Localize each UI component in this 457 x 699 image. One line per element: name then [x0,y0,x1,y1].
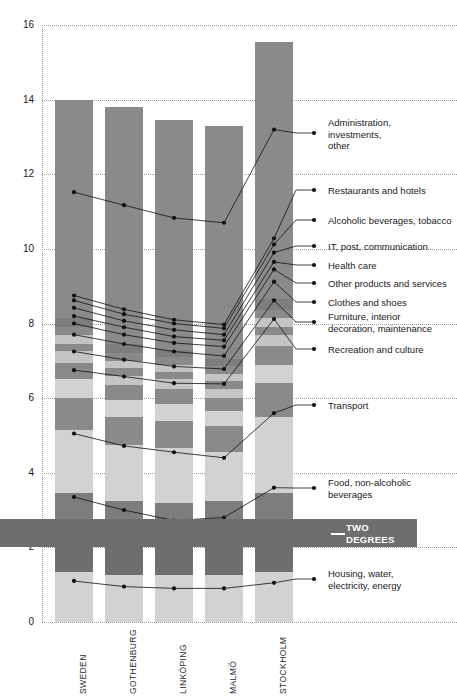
callout-label: IT, post, communication [328,241,428,253]
bar-segment [255,365,293,384]
bar-segment [155,421,193,449]
callout-label: Transport [328,400,368,412]
bar-segment [155,365,193,372]
bar-segment [205,126,243,359]
bar-segment [255,42,293,299]
bar-segment [255,318,293,327]
bar-segment [105,400,143,417]
y-axis-tick-label: 10 [8,244,34,254]
bar-segment [105,368,143,375]
bar-segment [205,389,243,398]
two-degrees-goal-band: TWO DEGREES GOAL [0,519,417,547]
bar-segment [55,430,93,493]
callout-label: Furniture, interior decoration, maintena… [328,311,432,334]
x-axis-tick-label: SWEDEN [78,654,88,694]
ghg-footprint-stacked-bar-chart: 0246810121416SWEDENGOTHENBURGLINKÖPINGMA… [0,0,457,699]
callout-label: Restaurants and hotels [328,185,426,197]
bar-segment [55,335,93,344]
bar-sweden [55,0,93,699]
callout-label: Housing, water, electricity, energy [328,568,401,591]
callout-label: Clothes and shoes [328,297,407,309]
bar-segment [155,404,193,421]
bar-segment [55,100,93,318]
bar-segment [255,327,293,334]
bar-segment [205,381,243,388]
y-axis-tick-label: 8 [8,319,34,329]
bar-segment [155,357,193,364]
bar-segment [55,363,93,380]
bar-segment [155,547,193,575]
bar-segment [55,318,93,327]
bar-segment [105,417,143,445]
bar-segment [105,344,143,353]
bar-segment [55,398,93,430]
callout-label: Health care [328,260,377,272]
y-axis-tick-label: 6 [8,393,34,403]
bar-segment [55,344,93,351]
y-axis-tick-label: 0 [8,617,34,627]
x-axis-tick-label: MALMÖ [228,661,238,694]
bar-segment [255,299,293,310]
callout-label: Administration, investments, other [328,117,391,152]
bar-segment [105,376,143,385]
bar-segment [155,448,193,502]
goal-band-label: TWO DEGREES GOAL [346,522,417,557]
bar-malmö [205,0,243,699]
y-axis-tick-label: 4 [8,468,34,478]
bar-gothenburg [105,0,143,699]
bar-segment [205,366,243,373]
bar-segment [155,379,193,388]
bar-segment [155,389,193,404]
y-axis-tick-label: 12 [8,169,34,179]
bar-segment [205,575,243,622]
bar-segment [255,383,293,417]
bar-segment [105,547,143,575]
bar-segment [205,426,243,452]
bar-segment [205,374,243,381]
bar-segment [205,411,243,426]
bar-segment [105,385,143,400]
bar-segment [205,398,243,411]
callout-label: Food, non-alcoholic beverages [328,477,411,500]
bar-segment [155,575,193,622]
callout-label: Other products and services [328,278,447,290]
bar-segment [205,359,243,366]
bar-segment [255,417,293,493]
callout-label: Alcoholic beverages, tobacco [328,215,452,227]
callout-label: Recreation and culture [328,344,424,356]
bar-segment [255,310,293,317]
bar-segment [205,547,243,575]
bar-segment [105,575,143,622]
bar-segment [155,372,193,379]
bar-segment [255,544,293,572]
goal-band-label-line1: TWO DEGREES [346,522,417,545]
bar-stockholm [255,0,293,699]
bar-segment [105,107,143,344]
y-axis-tick-label: 14 [8,95,34,105]
x-axis-tick-label: GOTHENBURG [128,629,138,694]
bar-segment [205,452,243,501]
bar-segment [155,120,193,349]
goal-band-label-line2: GOAL [346,545,417,557]
bar-segment [55,351,93,362]
bar-segment [255,346,293,365]
bar-segment [255,572,293,622]
bar-segment [105,353,143,360]
bar-segment [105,361,143,368]
bar-segment [255,335,293,346]
bar-linköping [155,0,193,699]
bar-segment [105,445,143,501]
y-axis-tick-label: 16 [8,20,34,30]
bar-segment [55,572,93,622]
bar-segment [55,544,93,572]
x-axis-tick-label: LINKÖPING [178,644,188,694]
bar-segment [155,350,193,357]
bar-segment [55,379,93,398]
goal-band-tick [331,533,345,535]
bar-segment [55,327,93,334]
x-axis-tick-label: STOCKHOLM [278,637,288,694]
